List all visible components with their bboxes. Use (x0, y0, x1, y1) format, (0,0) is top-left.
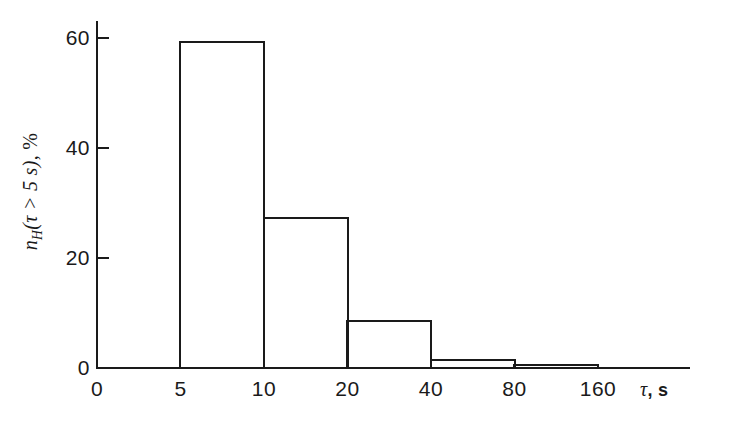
y-tick-60 (98, 37, 109, 39)
y-tick-40 (98, 147, 109, 149)
y-title-subscript: H (30, 230, 45, 240)
histogram-bar (263, 217, 349, 368)
histogram-bar (179, 41, 265, 368)
y-tick-label-20: 20 (48, 247, 90, 268)
x-tick-label-5: 5 (151, 378, 211, 399)
histogram-bar (430, 359, 516, 368)
y-tick-20 (98, 257, 109, 259)
y-tick-0 (98, 367, 109, 369)
y-tick-label-40: 40 (48, 137, 90, 158)
y-tick-label-60: 60 (48, 27, 90, 48)
x-tick-label-20: 20 (318, 378, 378, 399)
y-title-unit: % (19, 133, 41, 150)
y-tick-label-wrap: 0 (40, 357, 90, 379)
y-axis-line (96, 21, 98, 369)
x-tick-label-80: 80 (485, 378, 545, 399)
x-title-unit: s (658, 380, 668, 400)
histogram-bar (513, 364, 599, 368)
x-tick-label-10: 10 (234, 378, 294, 399)
x-tick-label-0: 0 (67, 378, 127, 399)
x-tick-label-40: 40 (401, 378, 461, 399)
y-tick-label-wrap: 60 (40, 27, 90, 49)
y-title-unit-sep: , (19, 150, 41, 161)
y-axis-title: nH(τ > 5 s), % (19, 92, 46, 292)
y-tick-label-0: 0 (48, 357, 90, 378)
histogram-figure: 0204060 0510204080160 nH(τ > 5 s), % τ, … (0, 0, 737, 437)
x-tick-label-160: 160 (568, 378, 628, 399)
y-tick-label-wrap: 40 (40, 137, 90, 159)
y-title-argument: (τ > 5 s) (19, 160, 41, 229)
x-axis-title: τ, s (640, 378, 668, 401)
y-tick-label-wrap: 20 (40, 247, 90, 269)
y-title-symbol: n (19, 240, 41, 250)
x-title-unit-sep: , (647, 380, 658, 400)
histogram-bar (346, 320, 432, 368)
